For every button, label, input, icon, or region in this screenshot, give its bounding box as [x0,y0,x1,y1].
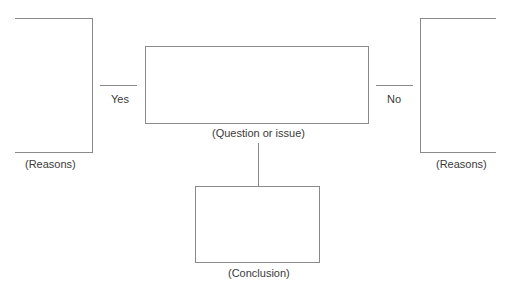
left-box-right-edge [92,18,93,153]
right-box-left-edge [420,18,421,153]
question-label: (Question or issue) [212,127,305,139]
question-box [145,46,369,124]
left-reasons-label: (Reasons) [25,158,76,170]
no-label: No [387,93,401,105]
conclusion-label: (Conclusion) [228,267,290,279]
yes-connector-line [100,85,137,86]
conclusion-connector-line [258,143,259,186]
right-reasons-label: (Reasons) [436,158,487,170]
right-box-bottom-edge [420,152,496,153]
left-box-bottom-edge [15,152,93,153]
left-box-top-edge [15,18,93,19]
conclusion-box [195,186,320,263]
no-connector-line [376,85,413,86]
yes-label: Yes [111,93,129,105]
right-box-top-edge [420,18,496,19]
